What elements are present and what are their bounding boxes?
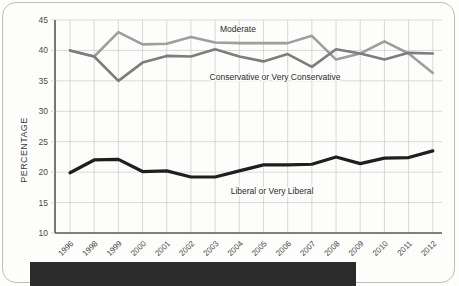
series-label: Conservative or Very Conservative [210, 72, 341, 82]
x-tick-label: 2009 [347, 239, 366, 258]
y-tick-label: 45 [39, 15, 49, 25]
line-chart: PERCENTAGE 1015202530354045 199619981999… [0, 0, 459, 286]
x-tick-label: 2007 [298, 239, 317, 258]
x-tick-label: 2001 [153, 239, 172, 258]
chart-page: PERCENTAGE 1015202530354045 199619981999… [0, 0, 459, 286]
series-lines [70, 32, 433, 177]
y-tick-label: 20 [39, 167, 49, 177]
y-tick-label: 15 [39, 198, 49, 208]
series-label: Moderate [220, 24, 256, 34]
x-tick-label: 2006 [274, 239, 293, 258]
series-line [70, 151, 433, 177]
y-tick-label: 40 [39, 45, 49, 55]
x-tick-label: 2012 [419, 239, 438, 258]
x-tick-labels: 1996199819992000200120022003200420052006… [56, 239, 438, 258]
series-label: Liberal or Very Liberal [231, 186, 314, 196]
x-tick-label: 2010 [371, 239, 390, 258]
y-gridlines [55, 20, 442, 203]
series-line [70, 32, 433, 73]
y-axis-title: PERCENTAGE [19, 117, 29, 182]
chart-svg: PERCENTAGE 1015202530354045 199619981999… [0, 0, 459, 286]
x-tick-label: 1999 [105, 239, 124, 258]
y-tick-label: 25 [39, 137, 49, 147]
bottom-dark-bar [30, 262, 356, 286]
x-tick-label: 1998 [81, 239, 100, 258]
x-tick-label: 1996 [56, 239, 75, 258]
x-tick-label: 2004 [226, 239, 245, 258]
x-tick-label: 2000 [129, 239, 148, 258]
x-gridlines [70, 20, 433, 233]
y-tick-label: 35 [39, 76, 49, 86]
x-tick-label: 2002 [177, 239, 196, 258]
x-tick-label: 2011 [396, 239, 415, 258]
y-tick-label: 10 [39, 228, 49, 238]
x-tick-label: 2005 [250, 239, 269, 258]
x-tick-label: 2003 [202, 239, 221, 258]
y-tick-label: 30 [39, 106, 49, 116]
x-tick-label: 2008 [323, 239, 342, 258]
series-inline-labels: ModerateModerateConservative or Very Con… [210, 24, 341, 196]
y-tick-labels: 1015202530354045 [39, 15, 55, 238]
